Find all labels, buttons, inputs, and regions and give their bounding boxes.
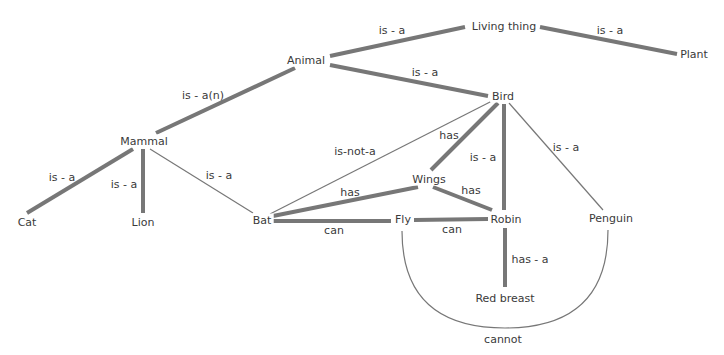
edge-label: is - a	[597, 25, 624, 36]
edge-bat-mammal	[150, 149, 253, 213]
node-robin: Robin	[489, 213, 524, 226]
edge-animal-bird	[330, 65, 488, 96]
edge-bird-penguin	[509, 103, 603, 210]
edge-label: has	[340, 187, 359, 198]
edge-label: can	[442, 224, 462, 235]
node-plant: Plant	[678, 48, 710, 61]
semantic-network-diagram: is - ais - ais - ais - a(n)is - ais - ai…	[0, 0, 724, 355]
node-bird: Bird	[490, 90, 516, 103]
node-cat: Cat	[16, 216, 39, 229]
edge-label: is - a	[412, 67, 439, 78]
edge-mammal-animal	[156, 68, 295, 133]
edge-label: has	[439, 130, 458, 141]
edge-label: has	[461, 185, 480, 196]
node-animal: Animal	[285, 54, 327, 67]
edge-label: is - a	[553, 142, 580, 153]
edge-label: is-not-a	[334, 146, 375, 157]
node-bat: Bat	[251, 214, 274, 227]
edge-label: is - a(n)	[182, 90, 224, 101]
node-wings: Wings	[410, 173, 447, 186]
node-living-thing: Living thing	[470, 20, 539, 33]
edge-layer	[0, 0, 724, 355]
edge-label: is - a	[49, 172, 76, 183]
node-fly: Fly	[393, 213, 413, 226]
edge-label: is - a	[379, 25, 406, 36]
edge-label: is - a	[470, 152, 497, 163]
edge-label-cannot: cannot	[484, 334, 522, 345]
edge-fly-robin	[414, 219, 488, 220]
edge-label: has - a	[511, 254, 548, 265]
node-penguin: Penguin	[587, 212, 635, 225]
edge-label: is - a	[111, 179, 138, 190]
node-lion: Lion	[130, 216, 157, 229]
edge-label: can	[324, 225, 344, 236]
edge-label: is - a	[206, 170, 233, 181]
node-red-breast: Red breast	[473, 292, 536, 305]
node-mammal: Mammal	[118, 135, 169, 148]
